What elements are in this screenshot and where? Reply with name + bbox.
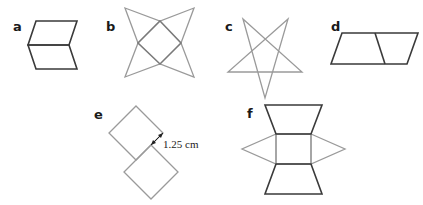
figure-f-right-triangle (311, 134, 345, 164)
figure-f: f (242, 105, 345, 194)
figure-f-top-trapezoid (265, 105, 322, 134)
figure-a-top-parallelogram (28, 21, 77, 45)
figure-e-label: e (94, 107, 103, 122)
figure-f-left-triangle (242, 134, 276, 164)
figure-e-dimension-arrow (151, 133, 163, 145)
figure-d-divider (375, 33, 385, 64)
figure-e-upper-square (109, 106, 163, 160)
diagram-canvas: a b c d e 1.25 cm f (0, 0, 423, 205)
figure-e: e 1.25 cm (94, 106, 199, 199)
figure-c-label: c (225, 19, 233, 34)
figure-b-center-square (138, 21, 181, 64)
figure-b-triangle-bottom (125, 43, 194, 77)
figure-d: d (331, 19, 418, 64)
figure-f-center-square (276, 134, 311, 164)
figure-b: b (106, 8, 194, 77)
figure-d-label: d (331, 19, 340, 34)
figure-c-pentagram (228, 19, 302, 98)
figure-f-label: f (247, 106, 253, 121)
figure-d-parallelogram (331, 33, 418, 64)
figure-e-lower-square (124, 145, 178, 199)
figure-c: c (225, 19, 302, 98)
figure-e-measurement: 1.25 cm (163, 138, 199, 150)
figure-f-bottom-trapezoid (265, 164, 322, 194)
figure-b-triangle-top (125, 8, 194, 43)
figure-b-label: b (106, 19, 115, 34)
figure-a-bottom-parallelogram (28, 45, 77, 69)
figure-a-label: a (13, 19, 22, 34)
figure-a: a (13, 19, 77, 69)
